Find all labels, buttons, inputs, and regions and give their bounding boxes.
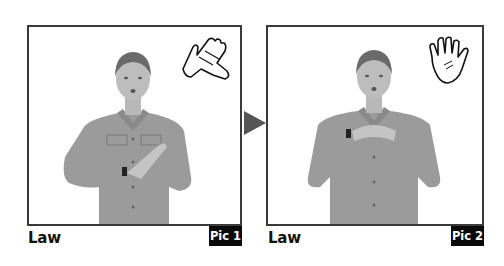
picture-number-badge: Pic 2	[451, 226, 484, 246]
arrow-right-icon	[244, 111, 266, 135]
picture-number-badge: Pic 1	[209, 226, 242, 246]
two-hands-clap-icon	[179, 35, 234, 83]
sign-caption: Law	[28, 229, 61, 247]
sign-photo-panel-1	[27, 25, 242, 226]
sign-photo-panel-2	[266, 25, 484, 226]
sign-caption: Law	[268, 229, 301, 247]
open-hand-icon	[428, 35, 472, 87]
